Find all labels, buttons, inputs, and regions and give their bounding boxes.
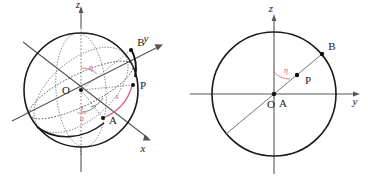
right-panel: z y η O A P B (190, 2, 360, 174)
great-circle-front-arc (37, 123, 104, 137)
radius-OP (81, 85, 133, 90)
right-point-label-P: P (305, 74, 311, 86)
left-point-A-dot (101, 116, 105, 120)
right-label-eta: η (284, 66, 288, 75)
left-point-label-A: A (109, 114, 117, 126)
left-y-axis-arrowhead (155, 44, 164, 50)
right-axis-label-y: y (352, 95, 358, 107)
right-point-P-dot (295, 73, 299, 77)
left-label-eta: η (89, 63, 93, 72)
left-point-P-dot (131, 83, 135, 87)
left-label-ratio-denominator: a (80, 114, 84, 123)
right-point-B-dot (320, 52, 324, 56)
left-point-B-dot (129, 48, 133, 52)
left-point-label-B: B (137, 36, 144, 48)
right-point-O-dot (272, 92, 276, 96)
right-z-axis-arrowhead (272, 14, 277, 21)
left-axis-label-z: z (75, 0, 81, 10)
left-point-O-dot (79, 88, 83, 92)
red-arc-AP (103, 86, 132, 118)
left-point-label-P: P (140, 79, 146, 91)
right-point-label-B: B (328, 40, 335, 52)
left-panel: z y x (12, 0, 163, 172)
right-point-label-A: A (279, 97, 287, 109)
right-point-label-O: O (267, 98, 275, 110)
left-point-label-O: O (62, 84, 70, 96)
left-label-arc-s: s (115, 92, 118, 101)
left-label-ratio-numerator: s (80, 103, 83, 112)
right-axis-label-z: z (268, 2, 274, 14)
figure-root: z y x (0, 0, 368, 180)
left-axis-label-x: x (140, 142, 146, 154)
radius-OA (81, 90, 103, 118)
diagram-canvas: z y x (0, 0, 368, 180)
